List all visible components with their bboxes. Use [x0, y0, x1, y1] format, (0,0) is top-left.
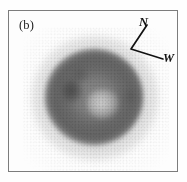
object-dark-knot-left	[61, 79, 83, 103]
image-frame: (b) N W	[8, 10, 178, 172]
compass-west-label: W	[163, 52, 174, 65]
object-dark-knot-right	[121, 87, 139, 105]
object-dark-knot-upper	[71, 67, 89, 83]
compass-north-label: N	[139, 16, 148, 29]
compass-rose: N W	[119, 15, 178, 73]
panel-label: (b)	[19, 19, 34, 32]
figure-panel: (b) N W	[0, 0, 187, 182]
object-bright-core	[87, 89, 119, 119]
